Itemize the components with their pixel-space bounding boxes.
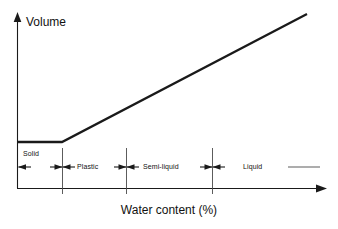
span-arrows-solid bbox=[18, 164, 63, 170]
plastic-right-arrowhead bbox=[119, 164, 127, 170]
solid-right-arrowhead bbox=[55, 164, 63, 170]
y-axis-label: Volume bbox=[26, 16, 66, 28]
plastic-left-arrowhead bbox=[63, 164, 71, 170]
solid-left-arrowhead bbox=[18, 164, 26, 170]
y-axis-arrowhead bbox=[14, 12, 22, 22]
y-axis bbox=[14, 12, 22, 189]
x-axis-arrowhead bbox=[316, 184, 327, 192]
chart-canvas bbox=[0, 0, 338, 229]
volume-water-content-figure: Volume Water content (%) Solid Plastic S… bbox=[0, 0, 338, 229]
region-label-plastic: Plastic bbox=[77, 163, 98, 170]
x-axis-label: Water content (%) bbox=[0, 204, 338, 216]
region-label-liquid: Liquid bbox=[243, 163, 262, 170]
region-label-solid: Solid bbox=[23, 150, 39, 157]
span-arrows-liquid bbox=[213, 164, 321, 170]
x-axis bbox=[17, 184, 327, 192]
volume-curve bbox=[18, 14, 307, 142]
semi-liquid-right-arrowhead bbox=[205, 164, 213, 170]
liquid-left-arrowhead bbox=[213, 164, 221, 170]
region-label-semi-liquid: Semi-liquid bbox=[143, 163, 179, 170]
semi-liquid-left-arrowhead bbox=[127, 164, 135, 170]
state-boundary-dividers bbox=[63, 148, 213, 194]
